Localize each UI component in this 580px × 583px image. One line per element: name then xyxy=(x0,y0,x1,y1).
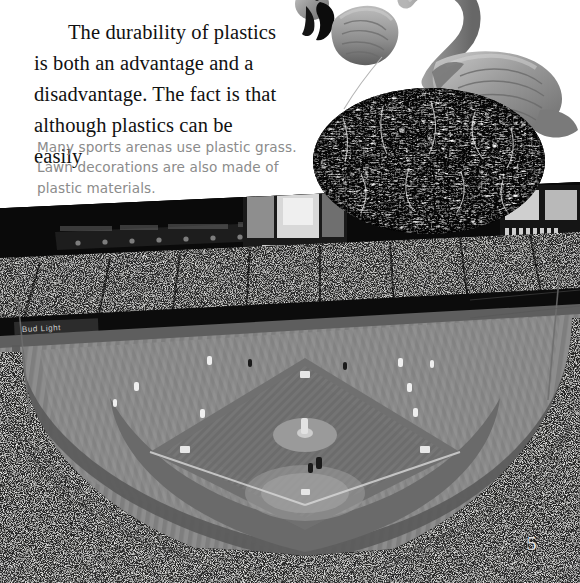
svg-text:Bud Light: Bud Light xyxy=(22,323,62,334)
book-page: Bud Light xyxy=(0,0,580,583)
figure-caption: Many sports arenas use plastic grass. La… xyxy=(37,137,305,199)
page-number: 5 xyxy=(527,533,537,555)
hanging-wire xyxy=(330,55,390,115)
